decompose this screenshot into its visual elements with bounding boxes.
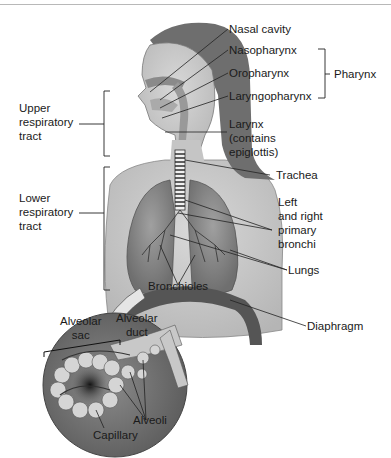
label-larynx: Larynx (contains epiglottis) xyxy=(229,117,278,159)
label-upper-respiratory-tract: Upper respiratory tract xyxy=(19,101,73,143)
label-pharynx: Pharynx xyxy=(334,67,376,81)
label-diaphragm: Diaphragm xyxy=(307,319,363,333)
pharynx-bracket xyxy=(318,49,330,98)
label-lungs: Lungs xyxy=(288,263,319,277)
label-laryngopharynx: Laryngopharynx xyxy=(229,89,311,103)
label-lower-respiratory-tract: Lower respiratory tract xyxy=(19,191,73,233)
label-capillary: Capillary xyxy=(93,428,138,442)
label-oropharynx: Oropharynx xyxy=(229,66,289,80)
label-primary-bronchi: Left and right primary bronchi xyxy=(278,195,323,251)
label-alveoli: Alveoli xyxy=(133,413,167,427)
trachea-shape xyxy=(175,150,185,210)
label-nasopharynx: Nasopharynx xyxy=(229,43,297,57)
label-bronchioles: Bronchioles xyxy=(148,279,208,293)
label-trachea: Trachea xyxy=(276,168,318,182)
label-alveolar-sac: Alveolar sac xyxy=(60,314,102,342)
label-alveolar-duct: Alveolar duct xyxy=(116,311,158,339)
label-nasal-cavity: Nasal cavity xyxy=(229,22,291,36)
